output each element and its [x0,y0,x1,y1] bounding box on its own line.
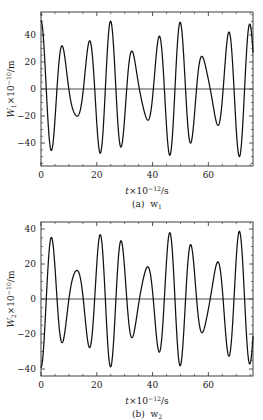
x-tick-label: 60 [203,170,215,180]
y-tick-label: −20 [17,111,36,121]
figure-panel-a: −40−20020400204060W1×10−10/mt×10−12/s(a)… [0,0,263,210]
panel-caption: (a) w1 [132,199,162,210]
y-axis-title: W1×10−10/m [5,60,17,117]
plot-area-b: −40−20020400204060W2×10−10/mt×10−12/s(b)… [0,210,263,420]
y-tick-label: −20 [17,329,36,339]
y-tick-label: 20 [25,259,37,269]
x-tick-label: 20 [91,170,103,180]
x-tick-label: 20 [91,380,103,390]
y-tick-label: −40 [17,138,36,148]
svg-text:W1×10−10/m: W1×10−10/m [5,60,17,117]
chart-w1: −40−20020400204060W1×10−10/mt×10−12/s(a)… [0,0,263,210]
x-tick-label: 0 [38,170,44,180]
x-tick-label: 60 [203,380,215,390]
panel-caption: (b) w2 [132,409,162,420]
y-tick-label: 20 [25,57,37,67]
x-axis-title: t×10−12/s [125,185,169,196]
y-axis-title: W2×10−10/m [5,270,17,327]
y-tick-label: −40 [17,364,36,374]
y-tick-label: 40 [25,30,37,40]
plot-area-a: −40−20020400204060W1×10−10/mt×10−12/s(a)… [0,0,263,210]
y-tick-label: 40 [25,224,37,234]
svg-text:W2×10−10/m: W2×10−10/m [5,270,17,327]
figure-panel-b: −40−20020400204060W2×10−10/mt×10−12/s(b)… [0,210,263,420]
x-tick-label: 40 [147,170,159,180]
y-tick-label: 0 [30,84,36,94]
x-tick-label: 0 [38,380,44,390]
y-tick-label: 0 [30,294,36,304]
x-tick-label: 40 [147,380,159,390]
x-axis-title: t×10−12/s [125,395,169,406]
chart-w2: −40−20020400204060W2×10−10/mt×10−12/s(b)… [0,210,263,420]
